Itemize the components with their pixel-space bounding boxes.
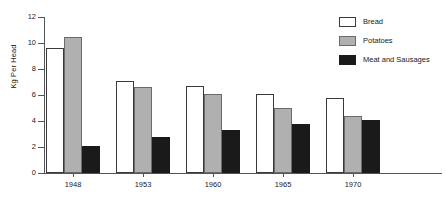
y-axis-title: Kg Per Head <box>9 32 18 102</box>
x-tick <box>353 173 354 177</box>
legend-label: Bread <box>363 16 383 27</box>
bar-1953-bread <box>116 81 134 173</box>
x-tick <box>213 173 214 177</box>
y-tick: 4 <box>38 121 44 122</box>
legend-label: Potatoes <box>363 35 393 46</box>
y-tick: 8 <box>38 69 44 70</box>
y-tick: 2 <box>38 147 44 148</box>
x-axis-line <box>44 173 442 174</box>
y-tick-label: 8 <box>32 64 36 73</box>
x-tick-label: 1970 <box>333 180 373 189</box>
bar-1970-potatoes <box>344 116 362 173</box>
y-tick-label: 10 <box>28 38 36 47</box>
y-tick: 6 <box>38 95 44 96</box>
bar-chart: Kg Per Head 024681012 194819531960196519… <box>0 0 446 205</box>
y-tick-label: 12 <box>28 12 36 21</box>
y-tick: 12 <box>38 17 44 18</box>
y-tick-label: 2 <box>32 142 36 151</box>
bar-1965-bread <box>256 94 274 173</box>
x-tick <box>73 173 74 177</box>
y-tick-label: 6 <box>32 90 36 99</box>
bar-1970-bread <box>326 98 344 173</box>
x-tick-label: 1953 <box>123 180 163 189</box>
x-tick <box>283 173 284 177</box>
legend-swatch-icon <box>339 17 356 27</box>
legend-label: Meat and Sausages <box>363 54 430 65</box>
legend-swatch-icon <box>339 55 356 65</box>
bar-1970-meat-and-sausages <box>362 120 380 173</box>
y-tick-label: 4 <box>32 116 36 125</box>
bar-1960-bread <box>186 86 204 173</box>
x-tick-label: 1965 <box>263 180 303 189</box>
bar-1965-meat-and-sausages <box>292 124 310 173</box>
x-tick-label: 1960 <box>193 180 233 189</box>
bar-1948-meat-and-sausages <box>82 146 100 173</box>
legend-swatch-icon <box>339 36 356 46</box>
bar-1948-bread <box>46 48 64 173</box>
bar-1960-meat-and-sausages <box>222 130 240 173</box>
x-tick <box>143 173 144 177</box>
bar-1960-potatoes <box>204 94 222 173</box>
x-tick-label: 1948 <box>53 180 93 189</box>
y-tick: 10 <box>38 43 44 44</box>
bar-1953-potatoes <box>134 87 152 173</box>
y-tick-label: 0 <box>32 168 36 177</box>
bar-1953-meat-and-sausages <box>152 137 170 173</box>
y-axis-line <box>44 17 45 173</box>
bar-1948-potatoes <box>64 37 82 174</box>
bar-1965-potatoes <box>274 108 292 173</box>
